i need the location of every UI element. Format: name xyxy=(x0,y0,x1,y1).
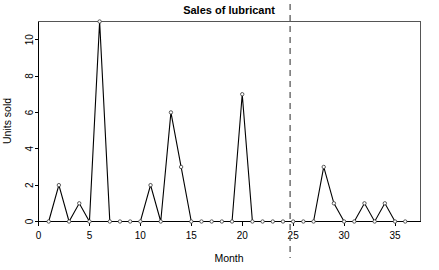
data-point xyxy=(98,20,101,23)
data-point xyxy=(363,202,366,205)
data-point xyxy=(139,220,142,223)
data-point xyxy=(190,220,193,223)
data-point xyxy=(67,220,70,223)
x-tick-label: 15 xyxy=(186,230,198,241)
x-tick-label: 20 xyxy=(237,230,249,241)
y-tick-label: 2 xyxy=(24,182,35,188)
data-point xyxy=(128,220,131,223)
data-point xyxy=(179,165,182,168)
data-point xyxy=(383,202,386,205)
y-axis-title: Units sold xyxy=(1,98,13,144)
data-point xyxy=(312,220,315,223)
data-point xyxy=(353,220,356,223)
data-point xyxy=(373,220,376,223)
y-tick-label: 8 xyxy=(24,73,35,79)
data-point xyxy=(251,220,254,223)
data-point xyxy=(322,165,325,168)
sales-of-lubricant-line-chart: Sales of lubricant 0246810 Units sold 05… xyxy=(0,0,439,270)
chart-container: Sales of lubricant 0246810 Units sold 05… xyxy=(0,0,439,270)
data-point xyxy=(230,220,233,223)
y-tick-label: 4 xyxy=(24,146,35,152)
data-point xyxy=(159,220,162,223)
data-point xyxy=(108,220,111,223)
page-title: Sales of lubricant xyxy=(183,4,275,16)
x-tick-label: 10 xyxy=(135,230,147,241)
x-tick-label: 35 xyxy=(389,230,401,241)
data-point xyxy=(149,183,152,186)
x-tick-label: 25 xyxy=(288,230,300,241)
x-axis-title: Month xyxy=(214,252,243,264)
data-point xyxy=(393,220,396,223)
data-point xyxy=(332,202,335,205)
data-point xyxy=(200,220,203,223)
chart-background xyxy=(0,0,439,270)
data-point xyxy=(281,220,284,223)
x-tick-label: 0 xyxy=(36,230,42,241)
y-tick-label: 0 xyxy=(24,218,35,224)
x-tick-label: 5 xyxy=(87,230,93,241)
y-tick-label: 6 xyxy=(24,109,35,115)
data-point xyxy=(78,202,81,205)
data-point xyxy=(291,220,294,223)
x-tick-label: 30 xyxy=(339,230,351,241)
data-point xyxy=(57,183,60,186)
data-point xyxy=(342,220,345,223)
data-point xyxy=(261,220,264,223)
data-point xyxy=(118,220,121,223)
data-point xyxy=(241,93,244,96)
data-point xyxy=(220,220,223,223)
data-point xyxy=(169,111,172,114)
data-point xyxy=(88,220,91,223)
data-point xyxy=(271,220,274,223)
data-point xyxy=(302,220,305,223)
data-point xyxy=(47,220,50,223)
data-point xyxy=(210,220,213,223)
y-tick-label: 10 xyxy=(24,34,35,46)
data-point xyxy=(404,220,407,223)
